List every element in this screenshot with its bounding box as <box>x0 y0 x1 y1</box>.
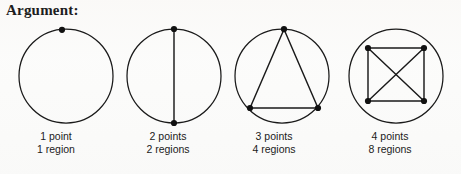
caption-1-regions: 1 region <box>0 143 112 156</box>
circle-diagram-4-canvas <box>340 20 452 132</box>
point-marker <box>315 105 321 111</box>
point-marker <box>421 98 427 104</box>
page-title: Argument: <box>6 2 79 19</box>
circle-diagram-4 <box>340 20 452 132</box>
point-marker <box>281 26 287 32</box>
point-marker <box>365 45 371 51</box>
point-marker <box>365 98 371 104</box>
circle-diagram-2 <box>118 20 230 132</box>
point-marker <box>171 120 177 126</box>
figure-page: Argument: 1 point 1 region 2 points 2 re… <box>0 0 461 174</box>
point-marker <box>171 26 177 32</box>
caption-4-regions: 8 regions <box>334 143 446 156</box>
caption-2-points: 2 points <box>112 130 224 143</box>
point-marker <box>59 27 65 33</box>
circle-outline <box>19 29 113 123</box>
circle-diagram-1 <box>10 20 122 132</box>
circle-outline <box>349 29 443 123</box>
caption-1: 1 point 1 region <box>0 130 112 155</box>
circle-diagram-1-canvas <box>10 20 122 132</box>
caption-4: 4 points 8 regions <box>334 130 446 155</box>
point-marker <box>247 105 253 111</box>
chord-line <box>250 29 284 108</box>
point-marker <box>421 45 427 51</box>
caption-3-points: 3 points <box>218 130 330 143</box>
caption-2: 2 points 2 regions <box>112 130 224 155</box>
circle-diagram-2-canvas <box>118 20 230 132</box>
caption-3-regions: 4 regions <box>218 143 330 156</box>
caption-4-points: 4 points <box>334 130 446 143</box>
circle-diagram-3-canvas <box>226 20 338 132</box>
caption-1-points: 1 point <box>0 130 112 143</box>
caption-2-regions: 2 regions <box>112 143 224 156</box>
circle-diagram-3 <box>226 20 338 132</box>
caption-3: 3 points 4 regions <box>218 130 330 155</box>
